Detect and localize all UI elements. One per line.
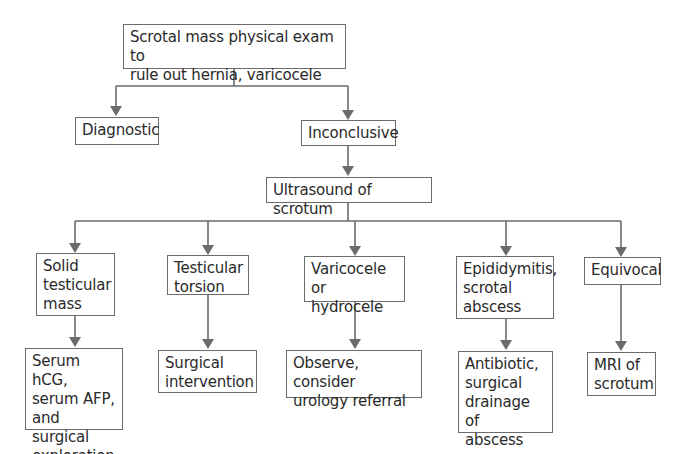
action-serum-markers: Serum hCG, serum AFP, and surgical explo… [25, 348, 123, 430]
finding-solid-mass: Solid testicular mass [36, 253, 115, 316]
finding-equivocal: Equivocal [584, 257, 661, 285]
action-mri: MRI of scrotum [587, 352, 656, 396]
inconclusive-node: Inconclusive [301, 120, 396, 146]
ultrasound-node: Ultrasound of scrotum [266, 177, 432, 203]
root-node: Scrotal mass physical exam to rule out h… [123, 24, 346, 69]
action-surgical-intervention: Surgical intervention [158, 350, 257, 393]
diagnostic-node: Diagnostic [75, 117, 159, 145]
finding-torsion: Testicular torsion [167, 255, 249, 295]
finding-varicocele-hydrocele: Varicocele or hydrocele [304, 256, 405, 302]
finding-epididymitis-abscess: Epididymitis, scrotal abscess [456, 256, 554, 319]
action-observe-referral: Observe, consider urology referral [286, 350, 422, 398]
action-antibiotic-drainage: Antibiotic, surgical drainage of abscess [458, 351, 553, 433]
